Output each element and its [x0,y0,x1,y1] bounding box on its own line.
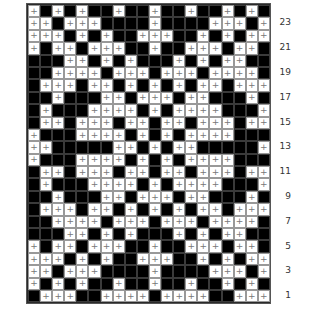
plus-stitch-cell: + [101,166,113,178]
filled-stitch-cell [137,5,149,17]
plus-stitch-cell: + [173,178,185,190]
plus-stitch-cell: + [88,129,100,141]
plus-stitch-cell: + [28,278,40,290]
plus-stitch-cell: + [246,79,258,91]
plus-stitch-cell: + [101,129,113,141]
plus-stitch-cell: + [161,129,173,141]
filled-stitch-cell [64,178,76,190]
filled-stitch-cell [113,55,125,67]
plus-stitch-cell: + [113,290,125,302]
filled-stitch-cell [40,154,52,166]
plus-stitch-cell: + [173,67,185,79]
row-label: 3 [285,265,291,275]
filled-stitch-cell [76,240,88,252]
filled-stitch-cell [209,278,221,290]
plus-stitch-cell: + [40,203,52,215]
filled-stitch-cell [52,129,64,141]
filled-stitch-cell [173,191,185,203]
plus-stitch-cell: + [209,154,221,166]
plus-stitch-cell: + [113,191,125,203]
plus-stitch-cell: + [52,191,64,203]
filled-stitch-cell [209,228,221,240]
filled-stitch-cell [258,92,270,104]
plus-stitch-cell: + [125,67,137,79]
plus-stitch-cell: + [76,216,88,228]
filled-stitch-cell [28,191,40,203]
filled-stitch-cell [161,79,173,91]
filled-stitch-cell [149,290,161,302]
plus-stitch-cell: + [76,228,88,240]
plus-stitch-cell: + [52,253,64,265]
plus-stitch-cell: + [161,253,173,265]
plus-stitch-cell: + [40,290,52,302]
plus-stitch-cell: + [258,104,270,116]
plus-stitch-cell: + [88,166,100,178]
plus-stitch-cell: + [149,278,161,290]
filled-stitch-cell [125,191,137,203]
plus-stitch-cell: + [234,79,246,91]
filled-stitch-cell [64,166,76,178]
filled-stitch-cell [40,240,52,252]
plus-stitch-cell: + [101,117,113,129]
filled-stitch-cell [88,228,100,240]
plus-stitch-cell: + [209,265,221,277]
filled-stitch-cell [149,117,161,129]
filled-stitch-cell [101,265,113,277]
filled-stitch-cell [88,253,100,265]
plus-stitch-cell: + [197,290,209,302]
plus-stitch-cell: + [197,228,209,240]
filled-stitch-cell [113,253,125,265]
filled-stitch-cell [161,265,173,277]
filled-stitch-cell [161,178,173,190]
filled-stitch-cell [222,203,234,215]
filled-stitch-cell [64,129,76,141]
plus-stitch-cell: + [64,240,76,252]
filled-stitch-cell [161,240,173,252]
filled-stitch-cell [161,17,173,29]
filled-stitch-cell [209,191,221,203]
plus-stitch-cell: + [161,216,173,228]
filled-stitch-cell [88,278,100,290]
plus-stitch-cell: + [161,191,173,203]
filled-stitch-cell [222,104,234,116]
plus-stitch-cell: + [234,42,246,54]
filled-stitch-cell [88,5,100,17]
plus-stitch-cell: + [113,5,125,17]
filled-stitch-cell [197,17,209,29]
filled-stitch-cell [173,42,185,54]
filled-stitch-cell [28,216,40,228]
row-label: 23 [280,17,291,27]
filled-stitch-cell [113,117,125,129]
plus-stitch-cell: + [52,79,64,91]
row-label: 11 [280,166,291,176]
filled-stitch-cell [149,154,161,166]
plus-stitch-cell: + [185,216,197,228]
filled-stitch-cell [173,5,185,17]
filled-stitch-cell [161,278,173,290]
filled-stitch-cell [173,240,185,252]
plus-stitch-cell: + [161,67,173,79]
plus-stitch-cell: + [52,42,64,54]
filled-stitch-cell [246,154,258,166]
plus-stitch-cell: + [52,278,64,290]
plus-stitch-cell: + [173,117,185,129]
plus-stitch-cell: + [40,30,52,42]
plus-stitch-cell: + [173,228,185,240]
filled-stitch-cell [246,265,258,277]
plus-stitch-cell: + [40,79,52,91]
filled-stitch-cell [258,278,270,290]
plus-stitch-cell: + [40,178,52,190]
row-label: 9 [285,191,291,201]
plus-stitch-cell: + [209,129,221,141]
plus-stitch-cell: + [52,290,64,302]
filled-stitch-cell [52,265,64,277]
filled-stitch-cell [161,141,173,153]
filled-stitch-cell [149,55,161,67]
filled-stitch-cell [137,178,149,190]
filled-stitch-cell [185,265,197,277]
plus-stitch-cell: + [185,278,197,290]
plus-stitch-cell: + [197,55,209,67]
plus-stitch-cell: + [173,55,185,67]
plus-stitch-cell: + [64,17,76,29]
plus-stitch-cell: + [234,17,246,29]
